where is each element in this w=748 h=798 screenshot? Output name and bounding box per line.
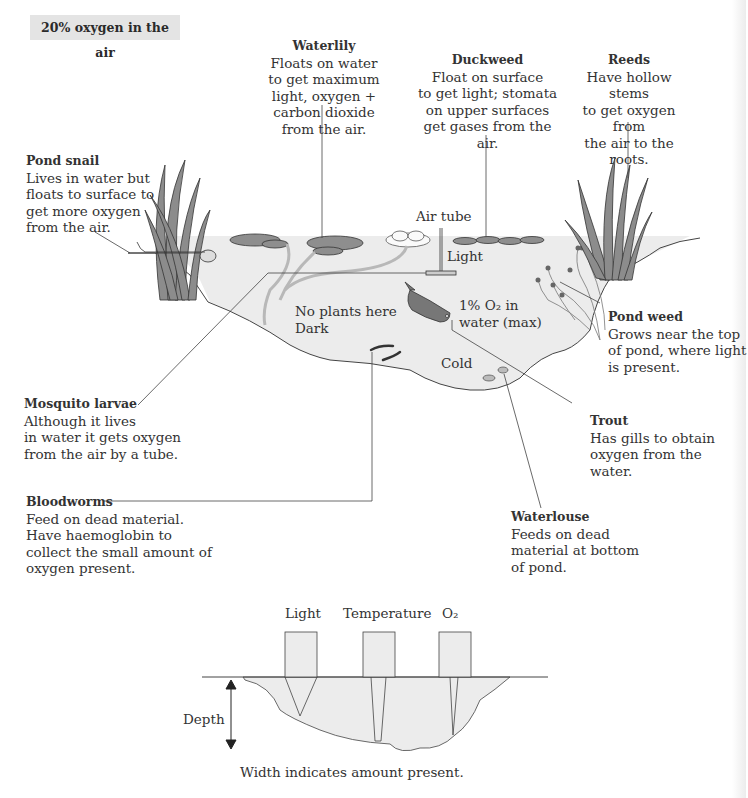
- profile-col-temperature: Temperature: [343, 605, 431, 621]
- profile-columns: [285, 632, 471, 677]
- air-tube-label: Air tube: [416, 208, 472, 225]
- label-pond-weed: Pond weed Grows near the top of pond, wh…: [608, 309, 748, 375]
- label-bloodworms: Bloodworms Feed on dead material. Have h…: [26, 494, 226, 577]
- duckweed-desc: Float on surface to get light; stomata o…: [415, 69, 560, 152]
- waterlouse-title: Waterlouse: [511, 509, 651, 526]
- label-reeds: Reeds Have hollow stems to get oxygen fr…: [565, 52, 693, 168]
- bloodworms-title: Bloodworms: [26, 494, 226, 511]
- reeds-title: Reeds: [565, 52, 693, 69]
- profile-col-oxygen: O₂: [442, 605, 458, 621]
- profile-col-light: Light: [285, 605, 321, 621]
- no-plants-label: No plants here Dark: [295, 303, 397, 336]
- label-waterlily: Waterlily Floats on water to get maximum…: [254, 38, 394, 137]
- trout-title: Trout: [590, 413, 746, 430]
- reeds-desc: Have hollow stems to get oxygen from the…: [565, 69, 693, 168]
- depth-profile: [202, 632, 548, 751]
- waterlily-title: Waterlily: [254, 38, 394, 55]
- depth-label: Depth: [183, 711, 225, 728]
- oxygen-water-label: 1% O₂ in water (max): [459, 297, 542, 330]
- depth-arrow: [226, 680, 236, 749]
- mosquito-larvae-title: Mosquito larvae: [24, 396, 184, 413]
- pond-snail-desc: Lives in water but floats to surface to …: [26, 170, 166, 236]
- pond-weed-desc: Grows near the top of pond, where light …: [608, 326, 748, 376]
- pond-weed-title: Pond weed: [608, 309, 748, 326]
- waterlily-flower: [386, 231, 430, 247]
- pond-snail-title: Pond snail: [26, 153, 166, 170]
- label-mosquito-larvae: Mosquito larvae Although it lives in wat…: [24, 396, 184, 462]
- label-pond-snail: Pond snail Lives in water but floats to …: [26, 153, 166, 236]
- trout-desc: Has gills to obtain oxygen from the wate…: [590, 430, 746, 480]
- duckweed-title: Duckweed: [415, 52, 560, 69]
- light-label: Light: [447, 248, 483, 265]
- bloodworms-desc: Feed on dead material. Have haemoglobin …: [26, 511, 226, 577]
- mosquito-larvae-desc: Although it lives in water it gets oxyge…: [24, 413, 184, 463]
- label-duckweed: Duckweed Float on surface to get light; …: [415, 52, 560, 151]
- label-waterlouse: Waterlouse Feeds on dead material at bot…: [511, 509, 651, 575]
- label-trout: Trout Has gills to obtain oxygen from th…: [590, 413, 746, 479]
- waterlily-desc: Floats on water to get maximum light, ox…: [254, 55, 394, 138]
- waterlouse-desc: Feeds on dead material at bottom of pond…: [511, 526, 651, 576]
- cold-label: Cold: [441, 355, 472, 372]
- profile-caption: Width indicates amount present.: [240, 764, 464, 780]
